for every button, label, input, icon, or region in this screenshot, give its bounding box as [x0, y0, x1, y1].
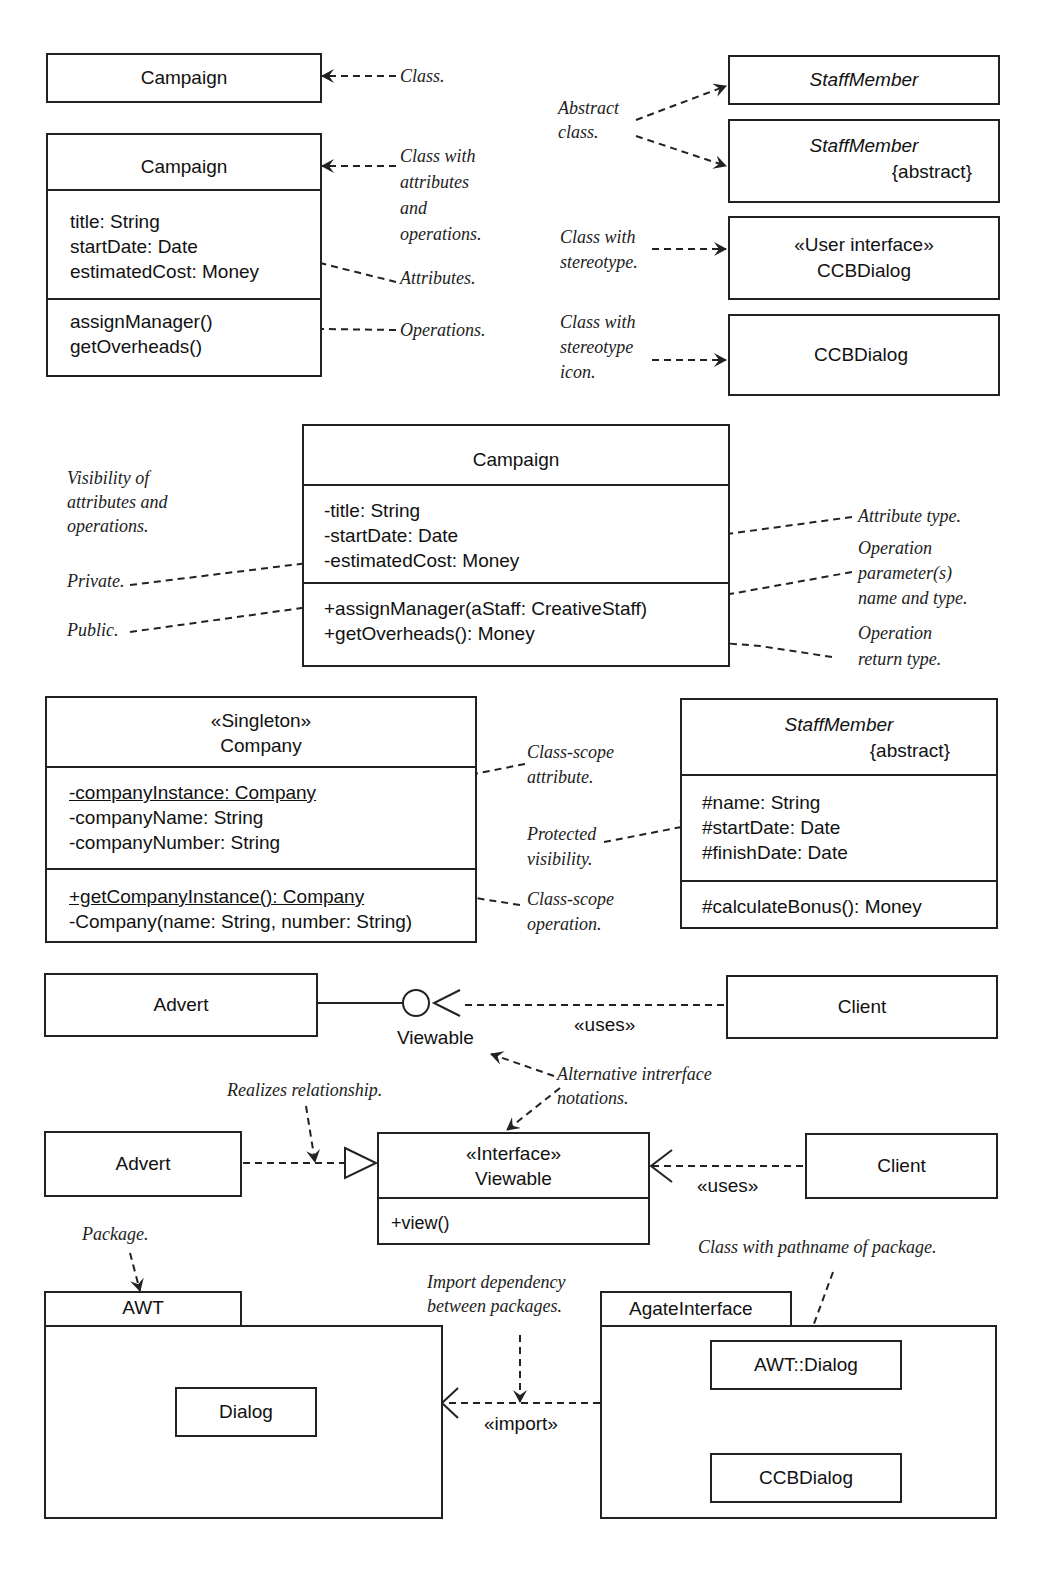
class-header: «Interface» Viewable [379, 1134, 648, 1197]
class-campaign-full[interactable]: Campaign title: String startDate: Date e… [46, 133, 322, 377]
operation: +view() [379, 1197, 648, 1234]
attribute: -estimatedCost: Money [324, 548, 728, 573]
stereotype: «Singleton» [47, 708, 475, 733]
class-name: CCBDialog [814, 316, 908, 394]
note-protected: Protectedvisibility. [527, 822, 596, 872]
note-import-dependency: Import dependencybetween packages. [427, 1270, 565, 1318]
class-name: CCBDialog [759, 1467, 853, 1488]
class-dialog[interactable]: Dialog [175, 1387, 317, 1437]
class-name: Client [838, 996, 887, 1017]
note-class-with: Class withattributesandoperations. [400, 143, 482, 247]
class-name: CCBDialog [730, 258, 998, 284]
package-name: AWT [122, 1297, 164, 1318]
class-name: Campaign [304, 426, 728, 484]
note-visibility: Visibility ofattributes andoperations. [67, 466, 168, 538]
attribute: #name: String [702, 790, 996, 815]
class-name: StaffMember [682, 712, 996, 738]
class-header: «Singleton» Company [47, 698, 475, 766]
operation: +assignManager(aStaff: CreativeStaff) [324, 596, 728, 621]
note-class: Class. [400, 63, 445, 89]
attribute: -startDate: Date [324, 523, 728, 548]
class-interface-viewable[interactable]: «Interface» Viewable +view() [377, 1132, 650, 1245]
attributes-compartment: -title: String -startDate: Date -estimat… [304, 484, 728, 582]
attribute: #finishDate: Date [702, 840, 996, 865]
attributes-compartment: title: String startDate: Date estimatedC… [48, 189, 320, 298]
operations-compartment: +assignManager(aStaff: CreativeStaff) +g… [304, 582, 728, 646]
class-name: Client [877, 1155, 926, 1176]
uses-label-1: «uses» [574, 1014, 635, 1036]
stereotype: «User interface» [730, 232, 998, 258]
operations-compartment: +getCompanyInstance(): Company -Company(… [47, 868, 475, 934]
operations-compartment: #calculateBonus(): Money [682, 880, 996, 919]
note-public: Public. [67, 617, 119, 643]
operation: -Company(name: String, number: String) [69, 909, 475, 934]
note-stereotype-icon: Class withstereotypeicon. [560, 310, 636, 385]
class-name: Viewable [379, 1166, 648, 1191]
operation: assignManager() [70, 309, 320, 334]
note-class-scope-operation: Class-scopeoperation. [527, 887, 614, 937]
note-operations: Operations. [400, 317, 486, 343]
class-name: Campaign [141, 67, 228, 88]
note-pathname: Class with pathname of package. [698, 1234, 936, 1260]
package-awt-tab[interactable]: AWT [44, 1291, 242, 1327]
constraint: {abstract} [682, 738, 996, 764]
operation: +getOverheads(): Money [324, 621, 728, 646]
attribute: -companyName: String [69, 805, 475, 830]
class-name: Advert [116, 1153, 171, 1174]
note-class-scope-attribute: Class-scopeattribute. [527, 740, 614, 790]
import-label: «import» [484, 1413, 558, 1435]
class-company-singleton[interactable]: «Singleton» Company -companyInstance: Co… [45, 696, 477, 943]
note-private: Private. [67, 568, 124, 594]
operation-static: +getCompanyInstance(): Company [69, 884, 475, 909]
uses-label-2: «uses» [697, 1175, 758, 1197]
class-ccbdialog[interactable]: CCBDialog [710, 1453, 902, 1503]
package-name: AgateInterface [629, 1298, 753, 1319]
class-name: Company [47, 733, 475, 758]
note-abstract: Abstractclass. [558, 96, 619, 144]
class-advert-1[interactable]: Advert [44, 973, 318, 1037]
class-name: Advert [154, 994, 209, 1015]
note-operation-params: Operationparameter(s)name and type. [858, 536, 967, 611]
class-name: StaffMember [730, 121, 998, 159]
class-campaign-simple[interactable]: Campaign [46, 53, 322, 103]
class-name: Campaign [48, 135, 320, 189]
note-attribute-type: Attribute type. [858, 503, 961, 529]
class-client-2[interactable]: Client [805, 1133, 998, 1199]
class-name: StaffMember [810, 69, 919, 90]
class-staffmember-abstract-constraint[interactable]: StaffMember {abstract} [728, 119, 1000, 203]
attribute-static: -companyInstance: Company [69, 780, 475, 805]
operation: #calculateBonus(): Money [702, 894, 996, 919]
class-ccbdialog-icon[interactable]: CCBDialog [728, 314, 1000, 396]
attribute: #startDate: Date [702, 815, 996, 840]
note-attributes: Attributes. [400, 265, 476, 291]
attribute: startDate: Date [70, 234, 320, 259]
operations-compartment: assignManager() getOverheads() [48, 298, 320, 359]
class-campaign-visibility[interactable]: Campaign -title: String -startDate: Date… [302, 424, 730, 667]
attribute: -title: String [324, 498, 728, 523]
note-operation-return: Operationreturn type. [858, 620, 941, 672]
package-agate-tab[interactable]: AgateInterface [600, 1291, 792, 1328]
class-staffmember-protected[interactable]: StaffMember {abstract} #name: String #st… [680, 698, 998, 929]
class-awt-dialog[interactable]: AWT::Dialog [710, 1340, 902, 1390]
note-realizes: Realizes relationship. [227, 1077, 382, 1103]
class-name: Dialog [219, 1401, 273, 1422]
attributes-compartment: -companyInstance: Company -companyName: … [47, 766, 475, 868]
attribute: estimatedCost: Money [70, 259, 320, 284]
note-package: Package. [82, 1221, 148, 1247]
class-ccbdialog-stereotype[interactable]: «User interface» CCBDialog [728, 216, 1000, 300]
class-advert-2[interactable]: Advert [44, 1131, 242, 1197]
note-alternative-interface: Alternative intrerfacenotations. [557, 1062, 712, 1110]
class-staffmember-abstract[interactable]: StaffMember [728, 55, 1000, 105]
lollipop-label: Viewable [397, 1027, 474, 1049]
class-name: AWT::Dialog [754, 1354, 858, 1375]
attribute: title: String [70, 209, 320, 234]
attributes-compartment: #name: String #startDate: Date #finishDa… [682, 774, 996, 880]
class-header: StaffMember {abstract} [682, 700, 996, 774]
note-stereotype: Class withstereotype. [560, 225, 638, 275]
class-client-1[interactable]: Client [726, 975, 998, 1039]
attribute: -companyNumber: String [69, 830, 475, 855]
stereotype: «Interface» [379, 1141, 648, 1166]
constraint: {abstract} [730, 159, 998, 185]
operation: getOverheads() [70, 334, 320, 359]
